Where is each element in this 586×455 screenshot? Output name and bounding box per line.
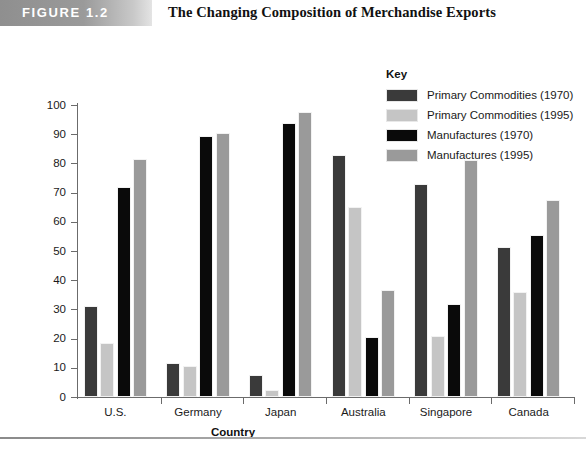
bar: [530, 235, 544, 397]
x-axis-tick: [491, 398, 492, 404]
bar: [298, 112, 312, 397]
y-axis-tick-label: 90: [40, 129, 66, 140]
x-axis-tick: [243, 398, 244, 404]
figure-header: FIGURE 1.2 The Changing Composition of M…: [0, 0, 586, 30]
legend-label: Primary Commodities (1995): [427, 109, 573, 122]
legend-label: Manufactures (1995): [427, 149, 533, 162]
figure-title: The Changing Composition of Merchandise …: [168, 4, 496, 21]
bar: [282, 123, 296, 397]
y-axis-tick-label: 50: [40, 246, 66, 257]
legend-label: Manufactures (1970): [427, 129, 533, 142]
bar: [414, 184, 428, 397]
y-axis-label-wrapper: 70: [36, 187, 66, 198]
bar: [265, 390, 279, 397]
y-axis-tick-label: 30: [40, 304, 66, 315]
x-axis-tick: [326, 398, 327, 404]
y-axis-label-wrapper: 0: [36, 392, 66, 403]
legend-title: Key: [386, 68, 407, 80]
legend-swatch: [386, 89, 418, 102]
legend-swatch: [386, 149, 418, 162]
y-axis-tick: [71, 309, 78, 310]
y-axis-tick: [71, 134, 78, 135]
bar: [365, 337, 379, 397]
bar: [332, 155, 346, 397]
bar: [431, 336, 445, 397]
bar: [117, 187, 131, 397]
y-axis-tick-label: 0: [40, 392, 66, 403]
y-axis-tick: [71, 222, 78, 223]
y-axis-tick-label: 10: [40, 362, 66, 373]
bar: [497, 247, 511, 397]
bar: [348, 207, 362, 397]
y-axis-tick: [71, 105, 78, 106]
legend-swatch: [386, 109, 418, 122]
y-axis-tick: [71, 368, 78, 369]
y-axis-tick: [71, 193, 78, 194]
legend-swatch: [386, 129, 418, 142]
bar: [513, 292, 527, 397]
y-axis-tick: [71, 397, 78, 398]
bar: [100, 343, 114, 397]
y-axis-tick-label: 60: [40, 216, 66, 227]
bar: [216, 133, 230, 397]
bar: [183, 366, 197, 397]
y-axis-tick-label: 100: [40, 100, 66, 111]
y-axis-label-wrapper: 10: [36, 362, 66, 373]
x-axis-category-label: Canada: [475, 406, 583, 418]
bar: [166, 363, 180, 397]
y-axis-label-wrapper: 60: [36, 216, 66, 227]
x-axis-tick: [161, 398, 162, 404]
x-axis-tick: [574, 398, 575, 404]
y-axis-label-wrapper: 100: [36, 100, 66, 111]
y-axis-tick: [71, 339, 78, 340]
bar-chart: 0102030405060708090100 U.S.GermanyJapanA…: [0, 30, 586, 430]
bar: [381, 290, 395, 397]
y-axis-label-wrapper: 90: [36, 129, 66, 140]
bar: [249, 375, 263, 397]
bar: [199, 136, 213, 397]
bar: [84, 306, 98, 397]
y-axis-tick-label: 20: [40, 333, 66, 344]
footer-divider: [0, 437, 586, 439]
figure-number-label: FIGURE 1.2: [22, 5, 109, 20]
y-axis-tick: [71, 280, 78, 281]
bar: [464, 160, 478, 397]
y-axis-tick: [71, 251, 78, 252]
y-axis-tick-label: 70: [40, 187, 66, 198]
y-axis-label-wrapper: 30: [36, 304, 66, 315]
legend-label: Primary Commodities (1970): [427, 89, 573, 102]
bar: [447, 304, 461, 397]
y-axis-tick-label: 40: [40, 275, 66, 286]
x-axis-tick: [409, 398, 410, 404]
bar: [133, 159, 147, 397]
y-axis-label-wrapper: 80: [36, 158, 66, 169]
y-axis-tick-label: 80: [40, 158, 66, 169]
y-axis-label-wrapper: 20: [36, 333, 66, 344]
y-axis-tick: [71, 163, 78, 164]
bar: [546, 200, 560, 397]
y-axis-label-wrapper: 40: [36, 275, 66, 286]
y-axis-label-wrapper: 50: [36, 246, 66, 257]
